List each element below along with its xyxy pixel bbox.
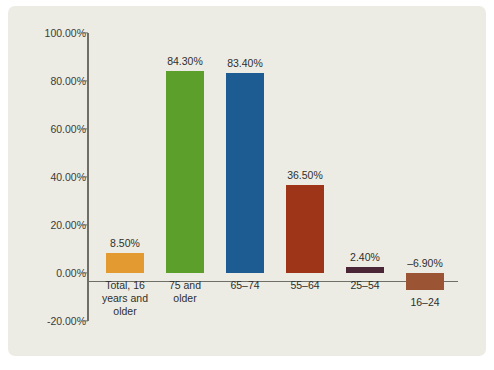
- category-label-line: 25–54: [328, 279, 402, 292]
- bar[interactable]: [346, 267, 384, 273]
- bar-group[interactable]: 84.30%75 andolder: [155, 6, 215, 356]
- y-axis-label: -20.00%: [16, 315, 86, 327]
- bar-group[interactable]: 8.50%Total, 16years andolder: [95, 6, 155, 356]
- chart-card: 100.00%80.00%60.00%40.00%20.00%0.00%-20.…: [8, 6, 486, 356]
- x-axis-category-label: 16–24: [388, 296, 462, 309]
- bar-group[interactable]: –6.90%16–24: [395, 6, 455, 356]
- category-label-line: older: [88, 305, 162, 318]
- plot-area: 100.00%80.00%60.00%40.00%20.00%0.00%-20.…: [8, 6, 486, 356]
- y-axis-label: 80.00%: [16, 75, 86, 87]
- category-label-line: 16–24: [388, 296, 462, 309]
- bar[interactable]: [406, 273, 444, 290]
- category-label-line: older: [148, 292, 222, 305]
- bar-value-label: 36.50%: [267, 169, 343, 181]
- y-axis-label: 0.00%: [16, 267, 86, 279]
- y-axis-label: 100.00%: [16, 27, 86, 39]
- bar-series: 8.50%Total, 16years andolder84.30%75 and…: [87, 6, 462, 356]
- bar-group[interactable]: 36.50%55–64: [275, 6, 335, 356]
- bar[interactable]: [226, 73, 264, 273]
- bar[interactable]: [286, 185, 324, 273]
- bar[interactable]: [166, 71, 204, 273]
- y-axis-label: 40.00%: [16, 171, 86, 183]
- x-axis-category-label: 25–54: [328, 279, 402, 292]
- bar-value-label: –6.90%: [387, 257, 463, 269]
- y-axis-label: 60.00%: [16, 123, 86, 135]
- bar-group[interactable]: 83.40%65–74: [215, 6, 275, 356]
- bar-group[interactable]: 2.40%25–54: [335, 6, 395, 356]
- bar-value-label: 8.50%: [87, 237, 163, 249]
- bar-value-label: 83.40%: [207, 57, 283, 69]
- bar[interactable]: [106, 253, 144, 273]
- y-axis-label: 20.00%: [16, 219, 86, 231]
